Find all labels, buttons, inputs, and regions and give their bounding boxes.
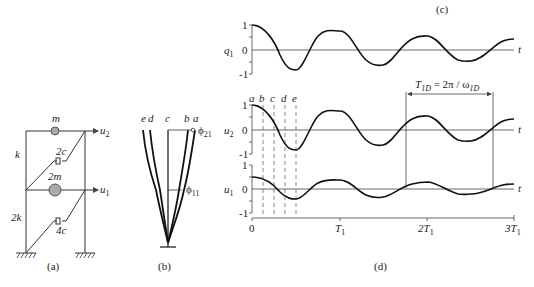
u1-plot-axes: [249, 165, 514, 213]
panel-label-d: (d): [374, 260, 387, 273]
phi21-label: ϕ21: [198, 124, 212, 139]
q1-tick-neg1: -1: [239, 68, 248, 80]
q1-tick-0: 0: [242, 44, 248, 56]
q1-curve: [252, 25, 514, 70]
curve-label-b: b: [184, 112, 190, 124]
q1-plot-axes: [249, 25, 514, 74]
x-tick-T1: T1: [335, 222, 345, 237]
curve-label-d: d: [148, 112, 154, 124]
time-axis: [252, 215, 514, 221]
phi21-marker: [191, 128, 195, 132]
u2-curve: [252, 105, 514, 150]
bottom-stiffness-label: 2k: [11, 211, 23, 223]
instant-b: b: [259, 92, 265, 104]
u1-tick-0: 0: [242, 183, 248, 195]
curve-label-e: e: [141, 112, 146, 124]
u1-t-label: t: [518, 182, 522, 194]
instant-c: c: [270, 92, 275, 104]
u1-dof-label: u1: [100, 183, 110, 198]
top-mass-label: m: [52, 112, 60, 124]
curve-label-c: c: [165, 112, 170, 124]
mass-top: [51, 127, 59, 135]
u2-t-label: t: [518, 123, 522, 135]
panel-label-a: (a): [47, 260, 60, 273]
x-tick-0: 0: [249, 222, 255, 234]
u2-plot-axes: [249, 105, 514, 154]
q1-axis-label: q1: [224, 44, 234, 59]
phi11-label: ϕ11: [186, 183, 200, 198]
u2-dof-label: u2: [100, 124, 110, 139]
top-stiffness-label: k: [15, 148, 21, 160]
u2-axis-label: u2: [224, 124, 234, 139]
figure-canvas: m 2m k 2k 2c 4c u2 u1 (a) e d c b a ϕ21 …: [0, 0, 534, 287]
instant-d: d: [281, 92, 287, 104]
bottom-damper-label: 4c: [56, 224, 67, 236]
panel-label-b: (b): [158, 260, 171, 273]
u2-tick-0: 0: [242, 124, 248, 136]
q1-t-label: t: [518, 43, 522, 55]
u1-curve: [252, 177, 514, 199]
q1-tick-1: 1: [242, 19, 248, 31]
u2-tick-1: 1: [242, 99, 248, 111]
x-tick-2T1: 2T1: [418, 222, 434, 237]
instant-a: a: [249, 92, 255, 104]
u1-axis-label: u1: [224, 183, 234, 198]
instant-dashed-lines: [263, 105, 296, 217]
u1-tick-1: 1: [242, 159, 248, 171]
instant-e: e: [292, 92, 297, 104]
mass-bottom: [49, 184, 61, 196]
x-tick-3T1: 3T1: [504, 222, 521, 237]
curve-label-a: a: [193, 112, 199, 124]
panel-label-c: (c): [436, 3, 449, 16]
top-damper-label: 2c: [56, 145, 67, 157]
period-annotation-lines: [406, 92, 493, 188]
period-label: T1D = 2π / ω1D: [415, 78, 479, 93]
u1-tick-neg1: -1: [239, 207, 248, 219]
bottom-mass-label: 2m: [48, 170, 62, 182]
